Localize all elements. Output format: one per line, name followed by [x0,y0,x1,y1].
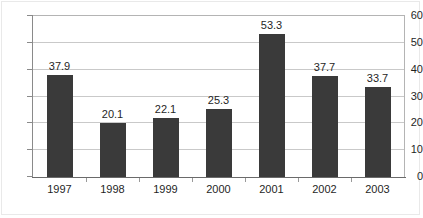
bar [100,123,126,177]
y-tick-mark [27,96,32,97]
bar-value-label: 37.9 [40,61,80,72]
y-tick-mark [27,15,32,16]
bar [259,34,285,177]
x-tick-mark [245,178,246,182]
x-tick-mark [139,178,140,182]
y-tick-mark [27,69,32,70]
bar [206,109,232,177]
y-tick-mark [27,42,32,43]
bar-chart: 0102030405060 19971998199920002001200220… [0,0,423,218]
x-tick-label: 2001 [248,183,296,195]
x-tick-label: 1997 [36,183,84,195]
x-tick-mark [192,178,193,182]
bar [153,118,179,177]
x-tick-label: 1998 [89,183,137,195]
bar-value-label: 53.3 [252,20,292,31]
x-tick-mark [298,178,299,182]
bar [365,87,391,177]
x-tick-label: 2002 [301,183,349,195]
y-tick-mark [27,176,32,177]
x-axis-line [32,177,406,178]
x-tick-mark [86,178,87,182]
bar-value-label: 25.3 [199,95,239,106]
bar-value-label: 33.7 [358,73,398,84]
bar-value-label: 37.7 [305,62,345,73]
x-tick-mark [351,178,352,182]
bar-value-label: 20.1 [93,109,133,120]
bar [312,76,338,177]
x-tick-label: 2000 [195,183,243,195]
y-tick-mark [27,122,32,123]
y-axis [0,0,32,218]
x-tick-label: 1999 [142,183,190,195]
x-tick-label: 2003 [354,183,402,195]
y-tick-mark [27,149,32,150]
bar-value-label: 22.1 [146,104,186,115]
bar [47,75,73,177]
